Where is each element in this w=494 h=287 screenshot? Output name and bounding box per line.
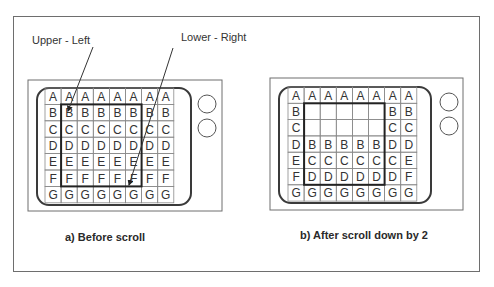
cell-letter: G — [388, 186, 397, 200]
cell-letter: G — [97, 188, 106, 202]
grid-cell — [352, 120, 368, 136]
cell-letter: B — [308, 138, 316, 152]
grid-cell — [336, 120, 352, 136]
cell-letter: F — [405, 170, 412, 184]
cell-letter: C — [340, 154, 349, 168]
cell-letter: B — [162, 106, 170, 120]
cell-letter: E — [146, 155, 154, 169]
cell-letter: A — [162, 90, 170, 104]
cell-letter: E — [49, 155, 57, 169]
caption-after-scroll: b) After scroll down by 2 — [300, 229, 428, 241]
cell-letter: B — [389, 105, 397, 119]
cell-letter: G — [324, 186, 333, 200]
cell-letter: G — [113, 188, 122, 202]
grid-cell — [369, 103, 385, 119]
cell-letter: G — [356, 186, 365, 200]
cell-letter: G — [307, 186, 316, 200]
cell-letter: D — [113, 139, 122, 153]
cell-letter: D — [388, 138, 397, 152]
cell-letter: E — [292, 154, 300, 168]
cell-letter: F — [146, 172, 153, 186]
cell-letter: A — [389, 89, 397, 103]
round-button-top[interactable] — [198, 95, 216, 113]
cell-letter: A — [49, 90, 57, 104]
cell-letter: D — [404, 138, 413, 152]
cell-letter: B — [324, 138, 332, 152]
cell-letter: D — [292, 138, 301, 152]
cell-letter: D — [340, 170, 349, 184]
cell-letter: C — [129, 123, 138, 137]
cell-letter: B — [49, 106, 57, 120]
grid-cell — [336, 103, 352, 119]
grid-cell — [320, 103, 336, 119]
cell-letter: D — [324, 170, 333, 184]
cell-letter: A — [324, 89, 332, 103]
cell-letter: D — [308, 170, 317, 184]
cell-letter: F — [114, 172, 121, 186]
cell-letter: A — [292, 89, 300, 103]
cell-letter: B — [97, 106, 105, 120]
cell-letter: C — [388, 154, 397, 168]
cell-letter: B — [373, 138, 381, 152]
cell-letter: D — [49, 139, 58, 153]
cell-letter: D — [372, 170, 381, 184]
cell-letter: A — [356, 89, 364, 103]
diagram-canvas: AAAAAAAABBBBBBBBCCCCCCCCDDDDDDDDEEEEEEEE… — [0, 0, 494, 287]
cell-letter: C — [404, 121, 413, 135]
cell-letter: G — [145, 188, 154, 202]
cell-letter: D — [81, 139, 90, 153]
cell-letter: C — [81, 123, 90, 137]
cell-letter: E — [65, 155, 73, 169]
round-button-top[interactable] — [440, 93, 458, 111]
cell-letter: E — [405, 154, 413, 168]
cell-letter: A — [405, 89, 413, 103]
caption-before-scroll: a) Before scroll — [65, 231, 145, 243]
cell-letter: G — [372, 186, 381, 200]
cell-letter: D — [97, 139, 106, 153]
cell-letter: B — [130, 106, 138, 120]
cell-letter: A — [373, 89, 381, 103]
cell-letter: G — [291, 186, 300, 200]
cell-letter: A — [113, 90, 121, 104]
cell-letter: G — [129, 188, 138, 202]
cell-letter: C — [97, 123, 106, 137]
cell-letter: B — [81, 106, 89, 120]
cell-letter: G — [404, 186, 413, 200]
cell-letter: F — [162, 172, 169, 186]
round-button-bottom[interactable] — [440, 117, 458, 135]
cell-letter: A — [97, 90, 105, 104]
cell-letter: C — [308, 154, 317, 168]
cell-letter: C — [388, 121, 397, 135]
grid-cell — [320, 120, 336, 136]
cell-letter: C — [65, 123, 74, 137]
cell-letter: C — [292, 121, 301, 135]
cell-letter: E — [81, 155, 89, 169]
panel-before-scroll: AAAAAAAABBBBBBBBCCCCCCCCDDDDDDDDEEEEEEEE… — [28, 80, 222, 211]
cell-letter: A — [130, 90, 138, 104]
round-button-bottom[interactable] — [198, 119, 216, 137]
grid-cell — [352, 103, 368, 119]
cell-letter: A — [81, 90, 89, 104]
grid-cell — [304, 103, 320, 119]
cell-letter: G — [81, 188, 90, 202]
cell-letter: D — [356, 170, 365, 184]
cell-letter: B — [113, 106, 121, 120]
cell-letter: A — [308, 89, 316, 103]
cell-letter: F — [82, 172, 89, 186]
cell-letter: B — [405, 105, 413, 119]
cell-letter: C — [372, 154, 381, 168]
cell-letter: C — [161, 123, 170, 137]
cell-letter: E — [162, 155, 170, 169]
grid-cell — [369, 120, 385, 136]
figure: Upper - Left Lower - Right AAAAAAAABBBBB… — [0, 0, 494, 287]
cell-letter: C — [49, 123, 58, 137]
cell-letter: G — [64, 188, 73, 202]
panel-after-scroll: AAAAAAAABBBCCCDBBBBBDDECCCCCCEFDDDDDDFGG… — [270, 78, 463, 210]
cell-letter: F — [98, 172, 105, 186]
cell-letter: A — [340, 89, 348, 103]
cell-letter: B — [292, 105, 300, 119]
cell-letter: D — [65, 139, 74, 153]
cell-letter: G — [48, 188, 57, 202]
cell-letter: E — [113, 155, 121, 169]
cell-letter: F — [49, 172, 56, 186]
